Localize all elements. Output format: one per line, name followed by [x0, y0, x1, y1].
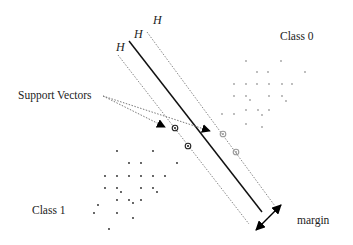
class0-point [268, 83, 270, 85]
class1-point [108, 228, 110, 230]
class0-point [245, 83, 247, 85]
svm-diagram: H H H Class 0 Class 1 Support Vectors ma… [0, 0, 353, 245]
class0-point [245, 109, 247, 111]
class0-point [233, 95, 235, 97]
class1-point [140, 187, 142, 189]
margin-line-left [118, 55, 249, 224]
class0-point [304, 71, 306, 73]
class0-point [233, 83, 235, 85]
class0-point [285, 100, 287, 102]
support-vector-pointers [103, 96, 210, 131]
class0-point [281, 95, 283, 97]
hyperplane-label-left: H [115, 40, 126, 54]
class0-point [261, 114, 263, 116]
class0-point [281, 83, 283, 85]
class1-point [164, 175, 166, 177]
class0-point [280, 60, 282, 62]
class0-point [245, 95, 247, 97]
class0-point [249, 99, 251, 101]
class0-point [233, 113, 235, 115]
class1-point [152, 150, 154, 152]
class0-point [245, 123, 247, 125]
support-vector-class0-center [222, 133, 224, 135]
class0-point [291, 83, 293, 85]
class1-points [93, 150, 178, 230]
class1-point [116, 212, 118, 214]
class1-point [140, 175, 142, 177]
class0-point [245, 60, 247, 62]
support-vector-class1-center [187, 145, 189, 147]
class1-point [93, 212, 95, 214]
class1-label: Class 1 [32, 204, 66, 216]
class1-point [140, 199, 142, 201]
class1-point [116, 175, 118, 177]
class0-point [268, 109, 270, 111]
class1-point [132, 217, 134, 219]
class1-point [120, 191, 122, 193]
class0-point [256, 83, 258, 85]
class1-point [116, 199, 118, 201]
class0-point [221, 113, 223, 115]
hyperplane-label-middle: H [133, 27, 144, 41]
class1-point [128, 175, 130, 177]
class1-point [104, 187, 106, 189]
support-vector-class1-center [174, 127, 176, 129]
class0-label: Class 0 [280, 30, 314, 42]
class0-point [261, 126, 263, 128]
class1-point [176, 162, 178, 164]
class0-points [221, 60, 306, 128]
hyperplanes [118, 32, 275, 224]
class1-point [156, 191, 158, 193]
class0-point [256, 71, 258, 73]
class0-point [268, 95, 270, 97]
class1-point [132, 202, 134, 204]
class1-point [128, 199, 130, 201]
class1-point [152, 187, 154, 189]
class0-point [257, 109, 259, 111]
class1-point [116, 187, 118, 189]
class1-point [116, 150, 118, 152]
class1-point [140, 162, 142, 164]
support-vectors-label: Support Vectors [18, 89, 92, 102]
class1-point [104, 175, 106, 177]
class0-point [267, 71, 269, 73]
margin-label: margin [297, 214, 330, 227]
class1-point [97, 204, 99, 206]
hyperplane-label-right: H [152, 13, 163, 27]
support-vector-class0-center [235, 151, 237, 153]
margin-line-right [147, 32, 275, 206]
class1-point [152, 175, 154, 177]
class1-point [128, 162, 130, 164]
